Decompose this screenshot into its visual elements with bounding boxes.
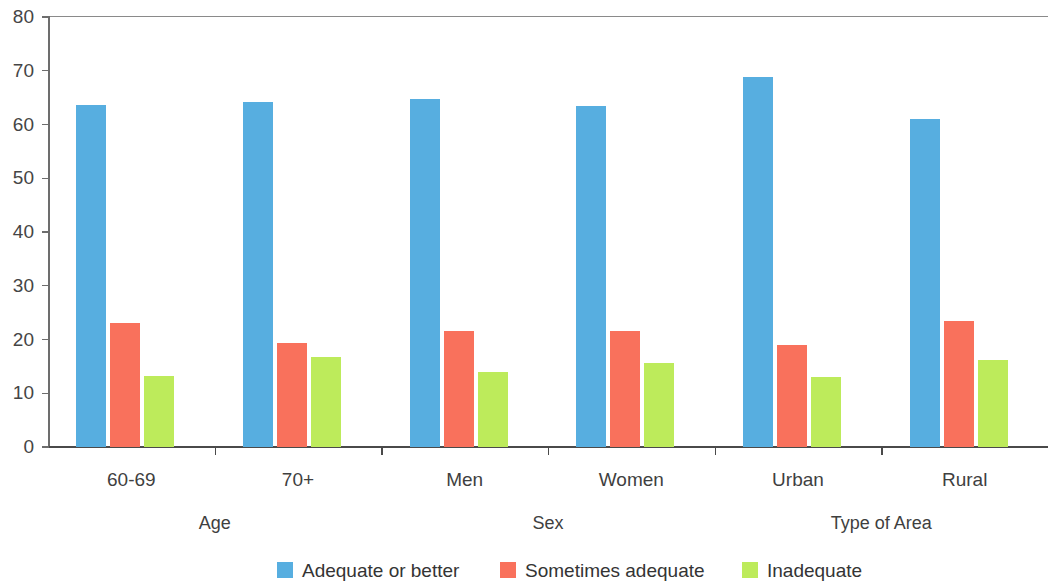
bar <box>978 360 1008 447</box>
legend-label: Adequate or better <box>302 561 459 580</box>
bar <box>777 345 807 447</box>
y-axis-tick-label: 50 <box>0 168 34 187</box>
y-axis-tick-label: 40 <box>0 222 34 241</box>
x-axis-tick <box>715 447 716 455</box>
y-axis-tick-label: 60 <box>0 115 34 134</box>
bar <box>110 323 140 447</box>
bar <box>743 77 773 447</box>
bar <box>478 372 508 447</box>
legend-item[interactable]: Sometimes adequate <box>500 558 705 582</box>
y-axis-tick-label: 10 <box>0 383 34 402</box>
x-axis-category-label: Women <box>548 470 715 489</box>
x-axis-category-label: Rural <box>881 470 1048 489</box>
legend-label: Inadequate <box>767 561 862 580</box>
y-axis-tick-label: 0 <box>0 437 34 456</box>
bar <box>811 377 841 447</box>
x-axis-category-label: Urban <box>715 470 882 489</box>
legend-label: Sometimes adequate <box>525 561 705 580</box>
x-axis-tick <box>381 447 382 455</box>
x-axis-group-label: Type of Area <box>715 514 1048 532</box>
legend-swatch-icon <box>277 562 293 578</box>
chart-legend: Adequate or betterSometimes adequateInad… <box>0 558 1048 588</box>
x-axis-tick <box>215 447 216 455</box>
legend-item[interactable]: Adequate or better <box>277 558 459 582</box>
x-axis-group-label: Sex <box>381 514 714 532</box>
bar <box>144 376 174 447</box>
y-axis-tick-label: 70 <box>0 61 34 80</box>
x-axis-group-label: Age <box>48 514 381 532</box>
x-axis-category-label: 60-69 <box>48 470 215 489</box>
bar <box>410 99 440 447</box>
bar <box>444 331 474 447</box>
x-axis-category-label: 70+ <box>215 470 382 489</box>
bar <box>576 106 606 447</box>
legend-swatch-icon <box>500 562 516 578</box>
bar <box>610 331 640 447</box>
legend-swatch-icon <box>742 562 758 578</box>
grouped-bar-chart: 01020304050607080 60-6970+MenWomenUrbanR… <box>0 0 1048 588</box>
bar <box>277 343 307 447</box>
x-axis-tick <box>548 447 549 455</box>
bar <box>243 102 273 447</box>
bar <box>910 119 940 447</box>
bar <box>944 321 974 447</box>
x-axis-tick <box>881 447 882 455</box>
x-axis-category-label: Men <box>381 470 548 489</box>
y-axis-tick-label: 20 <box>0 330 34 349</box>
bar <box>311 357 341 447</box>
bar <box>644 363 674 447</box>
legend-item[interactable]: Inadequate <box>742 558 862 582</box>
y-axis-tick-label: 80 <box>0 7 34 26</box>
bar <box>76 105 106 447</box>
y-axis-tick-label: 30 <box>0 276 34 295</box>
plot-area <box>48 17 1048 447</box>
